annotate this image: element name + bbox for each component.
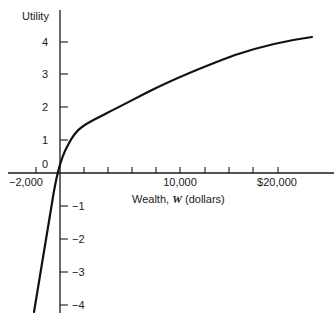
x-tick-label-10000: 10,000 xyxy=(163,176,197,188)
y-tick-label-neg1: −1 xyxy=(72,200,85,212)
y-axis-label: Utility xyxy=(22,10,49,22)
y-tick-label-neg4: −4 xyxy=(72,299,85,311)
y-tick-label-neg2: −2 xyxy=(72,233,85,245)
x-tick-label-neg2000: −2,000 xyxy=(9,176,43,188)
y-tick-label-2: 2 xyxy=(42,101,48,113)
x-axis-label: Wealth, W (dollars) xyxy=(132,193,225,205)
y-tick-label-4: 4 xyxy=(42,36,48,48)
x-axis-label-prefix: Wealth, xyxy=(132,193,172,205)
y-tick-label-3: 3 xyxy=(42,68,48,80)
x-axis-label-suffix: (dollars) xyxy=(182,193,225,205)
y-tick-label-1: 1 xyxy=(42,134,48,146)
utility-chart: Utility 4 3 2 1 0 −1 −2 −3 −4 −2,000 10,… xyxy=(0,0,336,320)
origin-label: 0 xyxy=(42,158,48,170)
y-tick-label-neg3: −3 xyxy=(72,266,85,278)
x-tick-label-20000: $20,000 xyxy=(257,176,297,188)
x-ticks xyxy=(36,167,278,173)
